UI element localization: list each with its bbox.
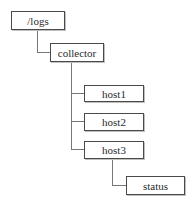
node-host3: host3 — [84, 141, 144, 159]
connector-host2 — [71, 121, 84, 122]
connector-host3 — [71, 149, 84, 150]
node-host1: host1 — [84, 85, 144, 102]
connector-host3-status-horizontal — [112, 185, 126, 186]
node-host2: host2 — [84, 113, 144, 131]
connector-collector-trunk — [71, 61, 72, 150]
connector-host1 — [71, 93, 84, 94]
node-label: host1 — [102, 88, 126, 100]
node-label: /logs — [27, 15, 48, 27]
node-label: host3 — [102, 144, 126, 156]
node-logs: /logs — [11, 11, 65, 30]
node-collector: collector — [50, 43, 104, 62]
connector-logs-collector-vertical — [37, 29, 38, 53]
connector-host3-status-vertical — [112, 158, 113, 186]
node-label: collector — [58, 47, 96, 59]
node-label: status — [143, 180, 168, 192]
connector-logs-collector-horizontal — [37, 52, 50, 53]
node-label: host2 — [102, 116, 126, 128]
node-status: status — [126, 176, 185, 195]
